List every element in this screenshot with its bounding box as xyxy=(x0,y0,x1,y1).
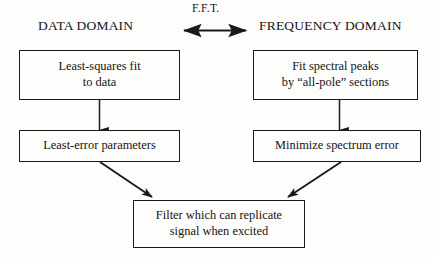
frequency-domain-heading: FREQUENCY DOMAIN xyxy=(259,18,402,34)
box-least-squares-fit-label: Least-squares fit to data xyxy=(58,59,140,91)
box-minimize-spectrum-error: Minimize spectrum error xyxy=(253,130,421,162)
arrow-minspec-to-filter xyxy=(288,162,341,197)
box-fit-spectral-peaks-label: Fit spectral peaks by “all-pole” section… xyxy=(282,59,389,91)
box-filter-result: Filter which can replicate signal when e… xyxy=(133,200,305,248)
arrow-lsparams-to-filter xyxy=(100,162,152,197)
box-filter-result-label: Filter which can replicate signal when e… xyxy=(156,208,282,240)
flow-diagram: DATA DOMAIN FREQUENCY DOMAIN F.F.T. Leas… xyxy=(0,0,434,258)
box-fit-spectral-peaks: Fit spectral peaks by “all-pole” section… xyxy=(253,50,418,100)
data-domain-heading: DATA DOMAIN xyxy=(38,18,133,34)
box-minimize-spectrum-error-label: Minimize spectrum error xyxy=(275,138,399,154)
box-least-squares-fit: Least-squares fit to data xyxy=(19,50,180,100)
box-least-error-parameters: Least-error parameters xyxy=(19,130,180,162)
box-least-error-parameters-label: Least-error parameters xyxy=(43,138,155,154)
fft-label: F.F.T. xyxy=(192,2,220,14)
